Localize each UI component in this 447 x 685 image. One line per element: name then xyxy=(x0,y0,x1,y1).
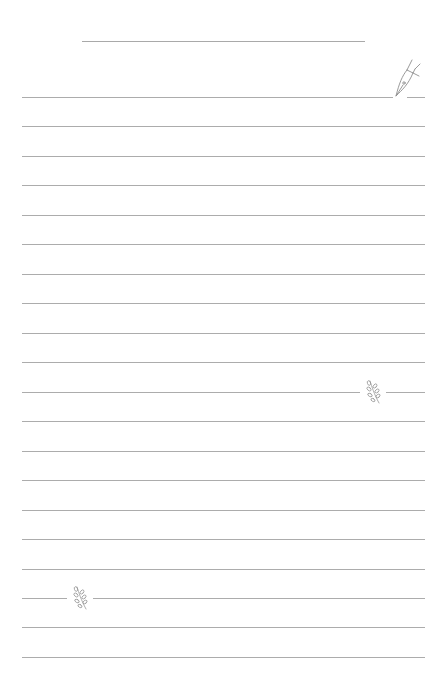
ruled-line xyxy=(22,274,425,275)
lined-paper-page xyxy=(0,0,447,685)
ruled-line xyxy=(22,215,425,216)
leaf-sprig-icon xyxy=(71,585,91,611)
leaf-sprig-icon xyxy=(364,379,384,405)
title-line xyxy=(82,41,365,42)
ruled-line xyxy=(22,627,425,628)
ruled-line xyxy=(22,244,425,245)
ruled-line xyxy=(22,539,425,540)
ruled-line xyxy=(22,362,425,363)
ruled-line xyxy=(22,421,425,422)
fountain-pen-nib-icon xyxy=(393,58,421,100)
ruled-line xyxy=(22,97,425,98)
ruled-line xyxy=(22,510,425,511)
ruled-line xyxy=(22,657,425,658)
ruled-line xyxy=(22,126,425,127)
ruled-line xyxy=(22,333,425,334)
ruled-line xyxy=(22,569,425,570)
ruled-line xyxy=(22,303,425,304)
ruled-line xyxy=(22,185,425,186)
ruled-line xyxy=(22,480,425,481)
ruled-line xyxy=(22,156,425,157)
ruled-line xyxy=(22,451,425,452)
